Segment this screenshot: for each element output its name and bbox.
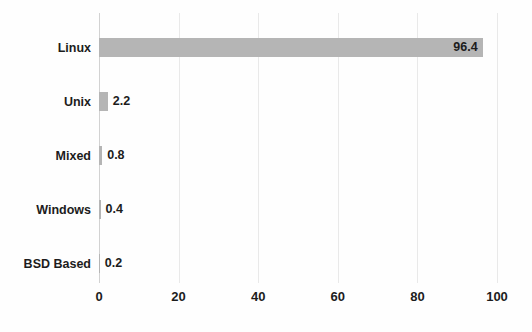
- xtick-label-80: 80: [410, 290, 424, 303]
- bar-chart: 96.4 2.2 0.8 0.4 0.2 Linux Unix Mixed Wi…: [0, 0, 532, 332]
- bar-row-mixed: 0.8: [99, 146, 125, 165]
- category-label-bsd-based: BSD Based: [24, 258, 91, 271]
- bar-mixed: [99, 146, 102, 165]
- bar-value-unix: 2.2: [113, 95, 130, 108]
- xtick-label-40: 40: [251, 290, 265, 303]
- xtick-label-20: 20: [171, 290, 185, 303]
- bar-bsd-based: [99, 254, 100, 273]
- bar-windows: [99, 200, 101, 219]
- bar-value-bsd-based: 0.2: [105, 257, 122, 270]
- bar-row-unix: 2.2: [99, 92, 130, 111]
- bar-value-windows: 0.4: [106, 203, 123, 216]
- plot-area: 96.4 2.2 0.8 0.4 0.2: [99, 13, 497, 283]
- bar-value-linux: 96.4: [453, 41, 477, 54]
- xtick-label-0: 0: [95, 290, 102, 303]
- bar-value-mixed: 0.8: [107, 149, 124, 162]
- gridline-100: [497, 13, 498, 283]
- category-label-mixed: Mixed: [56, 150, 91, 163]
- xtick-label-100: 100: [486, 290, 508, 303]
- bar-unix: [99, 92, 108, 111]
- bar-row-windows: 0.4: [99, 200, 123, 219]
- bar-row-bsd-based: 0.2: [99, 254, 122, 273]
- category-label-linux: Linux: [58, 42, 91, 55]
- category-label-windows: Windows: [36, 204, 91, 217]
- xtick-label-60: 60: [331, 290, 345, 303]
- category-label-unix: Unix: [64, 96, 91, 109]
- bar-row-linux: 96.4: [99, 38, 483, 57]
- bar-linux: 96.4: [99, 38, 483, 57]
